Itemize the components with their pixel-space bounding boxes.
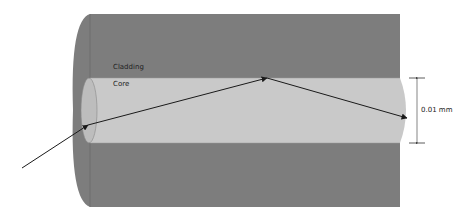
- core-label: Core: [113, 81, 129, 88]
- cladding-label: Cladding: [113, 64, 144, 71]
- dimension-label: 0.01 mm: [421, 107, 452, 114]
- core-band: [90, 78, 406, 143]
- fiber-diagram: Cladding Core 0.01 mm: [0, 0, 473, 220]
- fiber-svg: [0, 0, 473, 220]
- core-entry-face: [81, 78, 97, 143]
